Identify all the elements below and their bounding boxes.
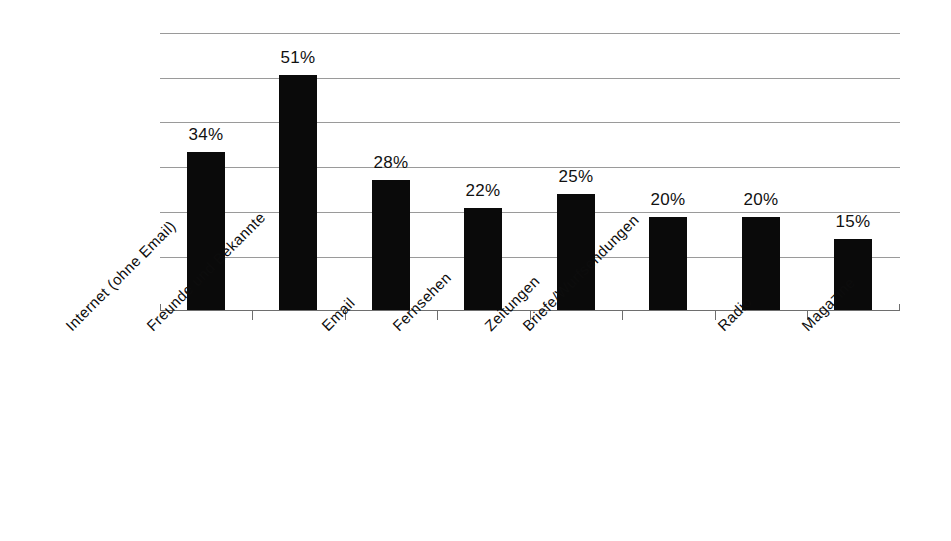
bar-value-label: 51%	[252, 48, 344, 68]
x-axis-tick	[622, 311, 623, 320]
bar	[649, 217, 687, 310]
x-axis-tick	[252, 311, 253, 320]
bar-group: 20%	[715, 33, 807, 310]
bar-value-label: 20%	[715, 190, 807, 210]
x-axis-tick	[437, 311, 438, 320]
bar-value-label: 34%	[160, 125, 252, 145]
bar-value-label: 28%	[345, 153, 437, 173]
bar-chart: 34% 51% 28% 22% 25% 20% 20% 15%	[0, 0, 951, 541]
x-axis-right-cap	[899, 304, 900, 311]
